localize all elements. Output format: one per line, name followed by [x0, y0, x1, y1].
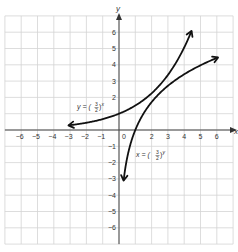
- equation-fraction-den-1: 2: [95, 107, 98, 113]
- x-tick-label: −3: [65, 133, 73, 140]
- x-tick-label: 5: [199, 133, 203, 140]
- y-tick-label: −2: [108, 159, 116, 166]
- coordinate-plane: −6−5−4−3−2−102345665432−1−2−3−4−5−6 y = …: [0, 0, 238, 252]
- x-tick-label: −5: [32, 133, 40, 140]
- x-tick-label: 4: [182, 133, 186, 140]
- axes: [5, 13, 237, 244]
- x-axis-label: x: [233, 127, 238, 136]
- x-tick-label: 6: [215, 133, 219, 140]
- y-tick-label: −3: [108, 175, 116, 182]
- x-tick-label: 0: [122, 133, 126, 140]
- curves: [68, 31, 218, 181]
- curve-exponential: [68, 31, 191, 125]
- x-tick-label: 2: [150, 133, 154, 140]
- y-tick-label: 5: [112, 45, 116, 52]
- y-tick-label: 6: [112, 29, 116, 36]
- equation-exponent-2: y: [162, 149, 166, 155]
- equation-label-logarithmic: x = (: [135, 151, 150, 159]
- x-tick-label: 3: [166, 133, 170, 140]
- equation-fraction-den-2: 2: [156, 155, 159, 161]
- x-tick-label: −1: [97, 133, 105, 140]
- x-tick-label: −2: [81, 133, 89, 140]
- y-tick-label: −4: [108, 192, 116, 199]
- equation-label-exponential: y = (: [76, 103, 91, 111]
- y-tick-label: 3: [112, 78, 116, 85]
- x-tick-label: −4: [48, 133, 56, 140]
- equation-exponent-1: x: [101, 101, 105, 107]
- curve-logarithmic: [124, 57, 218, 180]
- y-tick-label: −5: [108, 208, 116, 215]
- y-tick-label: 4: [112, 61, 116, 68]
- y-axis-arrow-icon: [116, 13, 122, 20]
- equation-labels: y = ( 3 2 ) x x = ( 3 2 ) y: [76, 101, 166, 161]
- y-axis-label: y: [115, 4, 121, 13]
- y-tick-label: −1: [108, 143, 116, 150]
- y-tick-label: 2: [112, 94, 116, 101]
- y-tick-label: −6: [108, 224, 116, 231]
- x-tick-label: −6: [16, 133, 24, 140]
